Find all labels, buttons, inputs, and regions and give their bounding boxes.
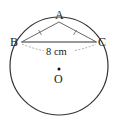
center-point bbox=[58, 68, 61, 71]
label-o: O bbox=[54, 72, 63, 86]
chord-ab bbox=[22, 22, 60, 42]
label-c: C bbox=[98, 35, 106, 49]
circle-diagram: A B C O 8 cm bbox=[0, 0, 113, 124]
label-b: B bbox=[10, 35, 18, 49]
label-a: A bbox=[55, 8, 64, 22]
circle bbox=[10, 17, 108, 115]
measurement-label: 8 cm bbox=[46, 46, 67, 57]
chord-ac bbox=[59, 22, 97, 42]
